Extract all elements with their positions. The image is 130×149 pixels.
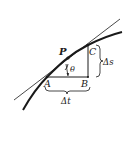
label-theta: θ xyxy=(70,65,75,74)
diagram-canvas: P θ A B C Δs Δt xyxy=(0,0,130,149)
label-p: P xyxy=(58,46,67,57)
label-delta-s: Δs xyxy=(102,57,114,67)
label-a: A xyxy=(43,78,51,89)
point-p xyxy=(66,56,69,59)
label-c: C xyxy=(89,46,97,57)
theta-arrowhead xyxy=(67,73,70,76)
label-b: B xyxy=(80,78,88,89)
delta-s-brace xyxy=(96,45,103,77)
label-delta-t: Δt xyxy=(60,96,71,106)
